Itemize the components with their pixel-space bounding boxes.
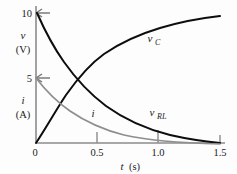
y-tick-label-5: 5 (27, 73, 32, 84)
curve-vrl (37, 13, 220, 143)
vrl-annotation-sub: RL (156, 112, 167, 121)
vrl-annotation-base: v (150, 106, 155, 118)
i-annotation: i (91, 107, 94, 119)
rc-rl-transient-response-figure: v (V) i (A) 10 5 0 0.5 1.0 1.5 t (s) v C… (0, 0, 237, 174)
x-axis-title-unit: (s) (129, 161, 141, 173)
voltage-axis-label: v (21, 29, 26, 41)
i-annotation-base: i (91, 107, 94, 119)
vc-annotation-base: v (148, 32, 153, 44)
x-tick-label-1-5: 1.5 (213, 147, 226, 158)
x-tick-label-0: 0 (32, 147, 37, 158)
curve-i (36, 78, 220, 144)
vc-annotation-sub: C (155, 38, 161, 47)
x-axis-title: t (s) (120, 160, 140, 173)
curve-vc (36, 16, 220, 143)
voltage-axis-unit: (V) (16, 44, 31, 56)
plot-svg: v (V) i (A) 10 5 0 0.5 1.0 1.5 t (s) v C… (0, 0, 237, 174)
y-tick-label-10: 10 (22, 8, 33, 19)
x-tick-label-0-5: 0.5 (90, 147, 103, 158)
vrl-annotation: v RL (150, 106, 167, 121)
vc-annotation: v C (148, 32, 161, 47)
x-tick-label-1-0: 1.0 (151, 147, 164, 158)
x-axis-title-symbol: t (120, 160, 124, 172)
current-axis-label: i (21, 94, 24, 106)
current-axis-unit: (A) (16, 109, 31, 121)
